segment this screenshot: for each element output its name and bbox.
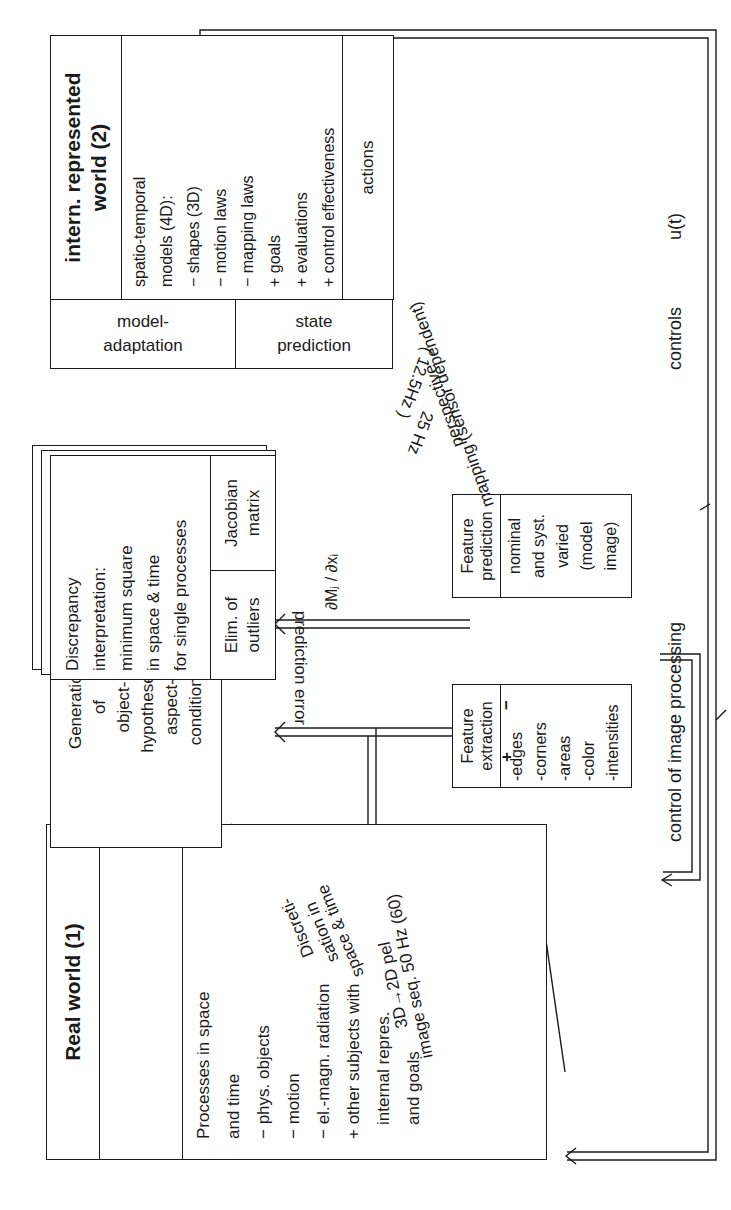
discrepancy-text: Discrepancy interpretation: minimum squa… bbox=[59, 461, 194, 671]
real-world-line: − el.-magn. radiation bbox=[309, 984, 339, 1139]
label-plus: + bbox=[497, 752, 517, 762]
label-jacobian-partial: ∂Mⱼ / ∂xᵢ bbox=[322, 554, 341, 610]
real-world-line: + other subjects with bbox=[339, 984, 369, 1139]
state-prediction-label: state prediction bbox=[277, 310, 351, 358]
label-u-t: u(t) bbox=[665, 213, 686, 240]
diagram-canvas: Real world (1) Processes in space and ti… bbox=[0, 0, 731, 1210]
real-world-line: Processes in space bbox=[189, 984, 219, 1139]
feature-extraction-title: Feature extraction bbox=[453, 685, 501, 787]
internal-world-line: spatio-temporal bbox=[126, 128, 153, 287]
internal-world-title-line1: intern. represented bbox=[60, 72, 86, 262]
real-world-title: Real world (1) bbox=[47, 825, 100, 1159]
label-minus: − bbox=[497, 700, 517, 710]
real-world-box: Real world (1) bbox=[46, 824, 183, 1160]
actions-cell: actions bbox=[342, 35, 394, 300]
internal-world-lines: spatio-temporal models (4D): − shapes (3… bbox=[126, 128, 342, 287]
internal-world-models-cell: spatio-temporal models (4D): − shapes (3… bbox=[121, 35, 343, 300]
internal-world-line: + goals bbox=[261, 128, 288, 287]
real-world-line: and time bbox=[219, 984, 249, 1139]
real-world-line: − phys. objects bbox=[249, 984, 279, 1139]
elim-outliers-cell: Elim. of outliers bbox=[210, 570, 276, 680]
internal-world-line: − motion laws bbox=[207, 128, 234, 287]
internal-world-line: models (4D): bbox=[153, 128, 180, 287]
internal-world-line: + control effectiveness bbox=[315, 128, 342, 287]
model-adaptation-label: model- adaptation bbox=[103, 310, 182, 358]
internal-world-title: intern. represented world (2) bbox=[51, 36, 121, 299]
feature-prediction-title: Feature prediction bbox=[453, 495, 501, 597]
label-control-image-processing: control of image processing bbox=[665, 622, 686, 842]
label-prediction-error: prediction error bbox=[290, 611, 310, 725]
state-prediction-cell: state prediction bbox=[235, 299, 393, 369]
internal-world-line: − mapping laws bbox=[234, 128, 261, 287]
real-world-line: − motion bbox=[279, 984, 309, 1139]
internal-world-line: − shapes (3D) bbox=[180, 128, 207, 287]
feature-prediction-items: nominal and syst. varied (model image) bbox=[503, 495, 623, 597]
feature-extraction-items: -edges -corners -areas -color -intensiti… bbox=[505, 705, 625, 781]
feature-extraction-box: Feature extraction -edges -corners -area… bbox=[452, 684, 632, 788]
internal-world-title-line2: world (2) bbox=[86, 124, 112, 212]
internal-world-title-cell: intern. represented world (2) bbox=[50, 35, 122, 300]
internal-world-line: + evaluations bbox=[288, 128, 315, 287]
model-adaptation-cell: model- adaptation bbox=[50, 299, 236, 369]
real-world-content: Processes in space and time − phys. obje… bbox=[182, 824, 547, 1160]
jacobian-matrix-cell: Jacobian matrix bbox=[210, 455, 276, 571]
label-controls: controls bbox=[665, 307, 686, 370]
